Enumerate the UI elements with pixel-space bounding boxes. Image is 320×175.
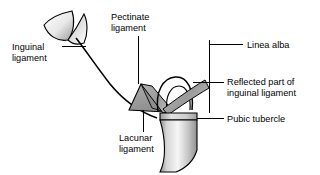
label-pubic-tubercle: Pubic tubercle	[227, 114, 285, 124]
label-lacunar-ligament-line2: ligament	[119, 144, 154, 154]
label-lacunar-ligament-line1: Lacunar	[119, 133, 152, 143]
anatomy-diagram: Inguinal ligament Pectinate ligament Lin…	[0, 0, 320, 175]
pubic-bone-shape	[160, 113, 197, 172]
label-linea-alba: Linea alba	[247, 40, 290, 50]
label-inguinal-ligament-line2: ligament	[12, 53, 47, 63]
label-reflected-part-line1: Reflected part of	[227, 77, 295, 87]
label-inguinal-ligament-line1: Inguinal	[12, 42, 44, 52]
anatomy-illustration: Inguinal ligament Pectinate ligament Lin…	[0, 0, 320, 175]
leader-lines-group	[62, 36, 243, 132]
reflected-inguinal-ligament-band	[163, 80, 209, 115]
label-reflected-part-line2: inguinal ligament	[227, 88, 296, 98]
asis-attachment-leaf-icon	[44, 11, 87, 44]
label-pectinate-ligament-line2: ligament	[111, 23, 146, 33]
label-pectinate-ligament-line1: Pectinate	[111, 12, 149, 22]
